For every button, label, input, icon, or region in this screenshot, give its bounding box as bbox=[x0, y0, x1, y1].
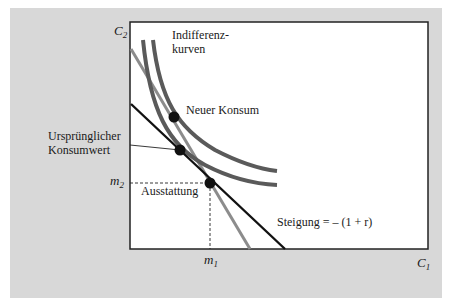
endowment-point bbox=[205, 178, 216, 189]
endowment-label: Ausstattung bbox=[141, 184, 198, 198]
slope-label: Steigung = – (1 + r) bbox=[277, 215, 372, 229]
m2-tick-label: m2 bbox=[110, 174, 124, 192]
indifference-label-line1: Indifferenz- bbox=[172, 28, 229, 42]
new-consumption-point bbox=[169, 112, 180, 123]
original-consumption-label-line1: Ursprünglicher bbox=[48, 129, 121, 143]
m1-tick-label: m1 bbox=[204, 253, 218, 271]
original-consumption-label-line2: Konsumwert bbox=[48, 143, 110, 157]
x-axis-label: C1 bbox=[417, 256, 430, 274]
new-consumption-label: Neuer Konsum bbox=[186, 103, 259, 117]
y-axis-label: C2 bbox=[114, 24, 127, 42]
original-consumption-point bbox=[175, 145, 186, 156]
indifference-label-line2: kurven bbox=[172, 42, 205, 56]
